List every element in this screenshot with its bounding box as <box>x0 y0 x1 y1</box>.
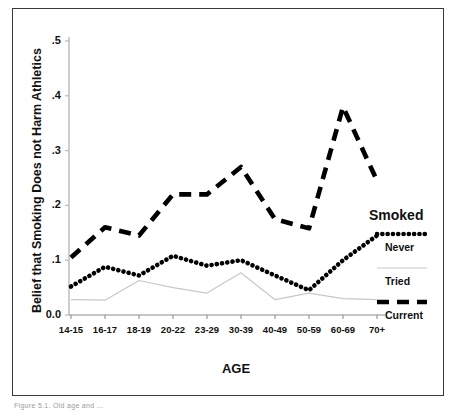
figure-caption: Figure 5.1. Old age and ... <box>14 402 103 409</box>
figure-container: Belief that Smoking Does not Harm Athlet… <box>0 0 459 414</box>
plot-area <box>13 9 445 397</box>
series-line-current <box>71 107 377 258</box>
chart-frame: Belief that Smoking Does not Harm Athlet… <box>12 8 444 396</box>
series-line-never <box>71 236 377 291</box>
series-line-tried <box>71 273 377 300</box>
